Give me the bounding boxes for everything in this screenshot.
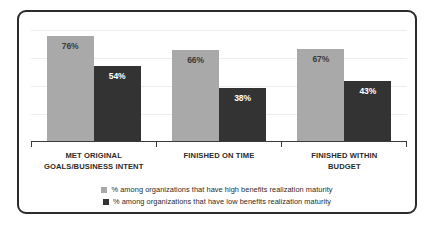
axis-tick-end (406, 141, 407, 147)
chart-card: 76% 54% 66% 38% 67% 43% (17, 10, 417, 214)
chart-legend: % among organizations that have high ben… (19, 184, 415, 208)
bar-value-label: 38% (219, 94, 266, 103)
category-label-met-original-goals: MET ORIGINAL GOALS/BUSINESS INTENT (31, 151, 156, 172)
bar-low-met-original-goals[interactable]: 54% (94, 66, 141, 141)
legend-swatch-icon (101, 187, 107, 193)
bar-high-met-original-goals[interactable]: 76% (47, 36, 94, 141)
bar-group-met-original-goals: 76% 54% (31, 24, 156, 141)
legend-swatch-icon (103, 199, 109, 205)
bar-value-label: 54% (94, 72, 141, 81)
bar-value-label: 76% (47, 42, 94, 51)
category-line-1: FINISHED WITHIN (282, 151, 407, 162)
category-label-finished-within-budget: FINISHED WITHIN BUDGET (282, 151, 407, 172)
category-labels: MET ORIGINAL GOALS/BUSINESS INTENT FINIS… (31, 151, 407, 172)
category-line-1: MET ORIGINAL (31, 151, 156, 162)
category-line-2: BUDGET (282, 162, 407, 173)
bar-group-finished-within-budget: 67% 43% (282, 24, 407, 141)
axis-tick-start (31, 141, 32, 147)
category-label-finished-on-time: FINISHED ON TIME (156, 151, 281, 172)
legend-item-high-maturity[interactable]: % among organizations that have high ben… (19, 184, 415, 196)
x-axis (31, 141, 407, 148)
axis-tick-1 (156, 141, 157, 147)
bar-high-finished-within-budget[interactable]: 67% (297, 49, 344, 141)
legend-item-label: % among organizations that have low bene… (113, 198, 331, 205)
bar-value-label: 43% (344, 87, 391, 96)
axis-tick-2 (281, 141, 282, 147)
bars-layer: 76% 54% 66% 38% 67% 43% (31, 24, 407, 141)
bar-high-finished-on-time[interactable]: 66% (172, 50, 219, 141)
plot-area: 76% 54% 66% 38% 67% 43% (31, 24, 407, 141)
bar-low-finished-on-time[interactable]: 38% (219, 88, 266, 141)
bar-low-finished-within-budget[interactable]: 43% (344, 81, 391, 141)
bar-group-finished-on-time: 66% 38% (156, 24, 281, 141)
axis-line (31, 141, 407, 142)
category-line-2: GOALS/BUSINESS INTENT (31, 162, 156, 173)
legend-item-label: % among organizations that have high ben… (111, 186, 332, 193)
category-line-1: FINISHED ON TIME (156, 151, 281, 162)
bar-value-label: 66% (172, 56, 219, 65)
bar-value-label: 67% (297, 55, 344, 64)
legend-item-low-maturity[interactable]: % among organizations that have low bene… (19, 196, 415, 208)
